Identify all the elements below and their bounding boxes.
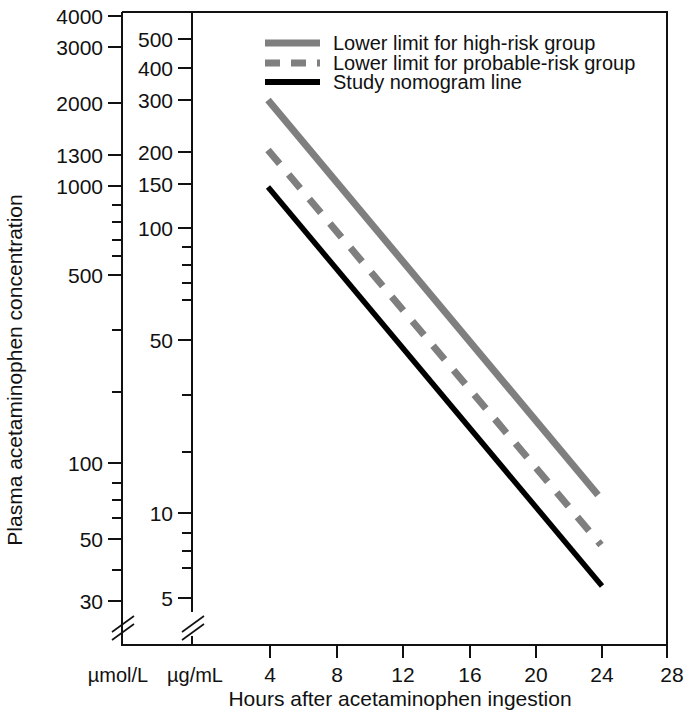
right-tick-label-10: 10 [150, 502, 173, 525]
right-axis-microgram: 500 400 300 200 150 100 50 10 5 [138, 12, 204, 645]
right-tick-label-5: 5 [161, 587, 173, 610]
left-tick-label-50: 50 [80, 528, 103, 551]
plot-frame [122, 12, 667, 645]
chart-canvas: 4000 3000 2000 1300 1000 500 100 50 30 [0, 0, 684, 710]
right-tick-label-50: 50 [150, 329, 173, 352]
right-axis-unit-label: µg/mL [167, 664, 223, 686]
right-tick-label-100: 100 [138, 217, 173, 240]
right-tick-label-200: 200 [138, 141, 173, 164]
x-tick-label-24: 24 [590, 663, 614, 686]
right-tick-label-300: 300 [138, 89, 173, 112]
left-tick-label-2000: 2000 [56, 92, 103, 115]
right-tick-label-150: 150 [138, 173, 173, 196]
right-tick-label-500: 500 [138, 28, 173, 51]
y-axis-title: Plasma acetaminophen concentration [3, 194, 26, 545]
x-axis-title: Hours after acetaminophen ingestion [228, 687, 571, 710]
legend: Lower limit for high-risk group Lower li… [265, 32, 635, 93]
right-tick-label-400: 400 [138, 57, 173, 80]
series-line-study-nomogram [268, 187, 602, 586]
left-tick-label-1300: 1300 [56, 144, 103, 167]
left-tick-label-30: 30 [80, 590, 103, 613]
legend-label-study-nomogram: Study nomogram line [333, 71, 522, 93]
data-lines [268, 100, 602, 586]
left-tick-label-1000: 1000 [56, 175, 103, 198]
left-tick-label-500: 500 [68, 264, 103, 287]
x-axis: 4 8 12 16 20 24 28 [264, 645, 684, 686]
x-tick-label-8: 8 [331, 663, 343, 686]
x-tick-label-4: 4 [264, 663, 276, 686]
left-tick-label-3000: 3000 [56, 36, 103, 59]
left-tick-label-4000: 4000 [56, 5, 103, 28]
x-tick-label-16: 16 [458, 663, 481, 686]
nomogram-figure: 4000 3000 2000 1300 1000 500 100 50 30 [0, 0, 684, 710]
left-tick-label-100: 100 [68, 452, 103, 475]
series-line-probable-risk [268, 150, 601, 545]
series-line-high-risk [268, 100, 598, 495]
x-tick-label-20: 20 [524, 663, 547, 686]
legend-label-high-risk: Lower limit for high-risk group [333, 32, 595, 54]
x-tick-label-28: 28 [660, 663, 683, 686]
left-axis-unit-label: µmol/L [88, 664, 148, 686]
x-tick-label-12: 12 [391, 663, 414, 686]
